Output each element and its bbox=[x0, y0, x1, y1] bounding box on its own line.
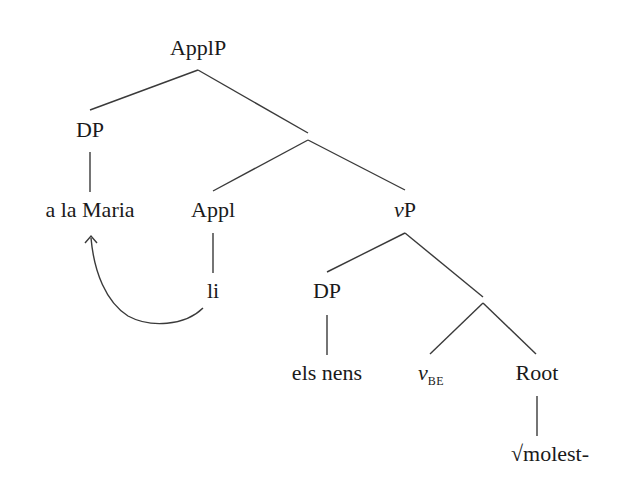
edge-vp-dp bbox=[327, 233, 405, 272]
edge-applbar-vp bbox=[308, 140, 405, 190]
leaf-a-la-maria: a la Maria bbox=[45, 198, 134, 222]
leaf-li: li bbox=[207, 279, 219, 303]
edge-applbar-appl bbox=[213, 140, 308, 191]
edge-applp-dp bbox=[90, 70, 198, 110]
edge-vp-vbar bbox=[405, 233, 483, 297]
edge-vbar-root bbox=[483, 303, 536, 354]
node-dp-subject: DP bbox=[313, 279, 341, 303]
vp-p-label: P bbox=[404, 197, 416, 222]
leaf-els-nens: els nens bbox=[292, 361, 362, 385]
node-appl: Appl bbox=[191, 198, 235, 222]
tree-edges bbox=[0, 0, 619, 490]
v-be-subscript: BE bbox=[428, 374, 444, 388]
vp-v-label: v bbox=[394, 197, 404, 222]
edge-vbar-vbe bbox=[430, 303, 483, 354]
movement-arrow bbox=[91, 238, 203, 324]
node-vp: vP bbox=[394, 198, 416, 222]
leaf-root-molest: √molest- bbox=[511, 442, 589, 466]
node-dp-specifier: DP bbox=[76, 118, 104, 142]
node-v-be: vBE bbox=[418, 361, 444, 393]
node-applp: ApplP bbox=[170, 36, 226, 60]
node-root: Root bbox=[516, 361, 559, 385]
edge-applp-applbar bbox=[198, 70, 308, 133]
v-be-v-label: v bbox=[418, 360, 428, 385]
